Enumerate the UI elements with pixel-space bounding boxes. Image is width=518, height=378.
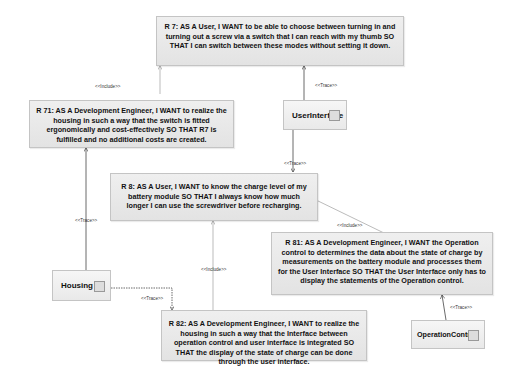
trace-opcontrol-r81 (442, 295, 446, 320)
label-include-r82-r8: <<Include>> (201, 267, 227, 272)
block-icon (329, 110, 340, 121)
requirement-r81[interactable]: R 81: AS A Development Engineer, I WANT … (271, 232, 493, 295)
label-include-r71-r7: <<Include>> (95, 84, 121, 89)
block-icon (94, 281, 105, 292)
block-housing-label: Housing (61, 281, 93, 290)
block-userinterface[interactable]: UserInterface (283, 100, 347, 130)
label-include-r81-r8: <<Include>> (337, 223, 363, 228)
requirement-r82[interactable]: R 82: AS A Development Engineer, I WANT … (161, 310, 367, 361)
requirement-r8-text: R 8: AS A User, I WANT to know the charg… (121, 182, 306, 210)
block-operationcontrol[interactable]: OperationControl (411, 320, 485, 349)
requirement-r71[interactable]: R 71: AS A Development Engineer, I WANT … (29, 100, 234, 148)
requirement-r8[interactable]: R 8: AS A User, I WANT to know the charg… (110, 173, 318, 221)
block-icon (468, 330, 479, 341)
label-trace-opcontrol-r81: <<Trace>> (450, 305, 472, 310)
block-housing[interactable]: Housing (52, 270, 111, 301)
label-trace-ui-r7: <<Trace>> (315, 83, 337, 88)
requirement-r82-text: R 82: AS A Development Engineer, I WANT … (169, 319, 360, 366)
requirement-r81-text: R 81: AS A Development Engineer, I WANT … (278, 238, 486, 285)
requirement-r7[interactable]: R 7: AS A User, I WANT to be able to cho… (156, 16, 404, 66)
requirement-r7-text: R 7: AS A User, I WANT to be able to cho… (165, 22, 396, 50)
label-trace-housing-r82: <<Trace>> (141, 296, 163, 301)
label-trace-ui-r8: <<Trace>> (284, 161, 306, 166)
label-trace-housing-r71: <<Trace>> (75, 218, 97, 223)
requirement-r71-text: R 71: AS A Development Engineer, I WANT … (36, 106, 227, 144)
